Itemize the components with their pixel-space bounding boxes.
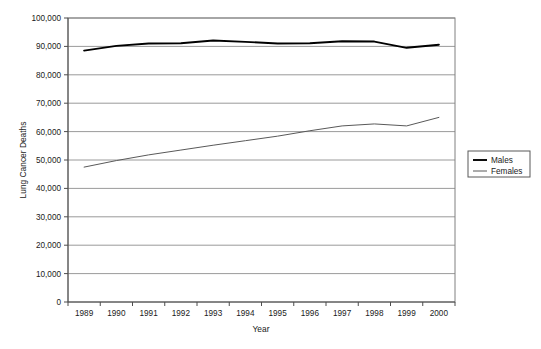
lung-cancer-deaths-line-chart: 010,00020,00030,00040,00050,00060,00070,…	[0, 0, 541, 349]
y-tick-label: 10,000	[36, 270, 61, 279]
x-tick-label: 2000	[430, 309, 449, 318]
x-tick-label: 1994	[236, 309, 255, 318]
x-tick-label: 1999	[398, 309, 417, 318]
x-tick-label: 1997	[333, 309, 352, 318]
y-tick-label: 0	[56, 298, 61, 307]
y-tick-label: 80,000	[36, 71, 61, 80]
x-axis-title: Year	[253, 324, 270, 334]
chart-canvas: 010,00020,00030,00040,00050,00060,00070,…	[0, 0, 541, 349]
y-tick-label: 50,000	[36, 156, 61, 165]
x-tick-label: 1991	[140, 309, 159, 318]
x-tick-label: 1989	[75, 309, 94, 318]
legend: MalesFemales	[468, 151, 530, 177]
x-tick-label: 1995	[269, 309, 288, 318]
x-tick-label: 1992	[172, 309, 191, 318]
y-tick-label: 90,000	[36, 42, 61, 51]
y-axis-title: Lung Cancer Deaths	[18, 122, 28, 199]
y-tick-label: 70,000	[36, 99, 61, 108]
y-tick-label: 20,000	[36, 241, 61, 250]
x-tick-label: 1998	[365, 309, 384, 318]
x-tick-label: 1996	[301, 309, 320, 318]
legend-label-males: Males	[491, 156, 513, 165]
x-tick-label: 1990	[107, 309, 126, 318]
y-tick-label: 30,000	[36, 213, 61, 222]
y-axis-ticks: 010,00020,00030,00040,00050,00060,00070,…	[31, 14, 68, 307]
y-tick-label: 60,000	[36, 128, 61, 137]
y-tick-label: 100,000	[31, 14, 61, 23]
x-axis-ticks: 1989199019911992199319941995199619971998…	[68, 302, 455, 318]
y-tick-label: 40,000	[36, 184, 61, 193]
legend-label-females: Females	[491, 167, 522, 176]
x-tick-label: 1993	[204, 309, 223, 318]
